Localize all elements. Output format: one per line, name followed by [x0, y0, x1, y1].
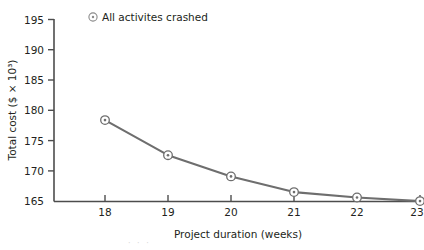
y-tick-label-175: 175 — [24, 135, 44, 147]
page-bleed-artifact: · · · — [128, 239, 151, 248]
data-point-19[interactable] — [164, 151, 173, 160]
y-axis-title: Total cost ($ × 10³) — [6, 60, 18, 162]
x-tick-label-22: 22 — [350, 206, 363, 218]
x-tick-label-21: 21 — [287, 206, 300, 218]
series-line-path — [105, 120, 420, 201]
y-tick-label-180: 180 — [24, 104, 44, 116]
x-tick-label-19: 19 — [161, 206, 174, 218]
y-tick-label-170: 170 — [24, 165, 44, 177]
marker-dot-18 — [104, 119, 107, 122]
x-tick-label-18: 18 — [98, 206, 111, 218]
y-axis-tick-labels: 195 190 185 180 175 170 165 — [24, 14, 44, 208]
data-point-22[interactable] — [353, 193, 362, 202]
marker-dot-23 — [419, 200, 422, 203]
data-point-20[interactable] — [227, 172, 236, 181]
data-point-21[interactable] — [290, 188, 299, 197]
x-axis-title: Project duration (weeks) — [174, 228, 302, 240]
marker-dot-20 — [230, 175, 233, 178]
y-tick-label-195: 195 — [24, 14, 44, 26]
marker-dot-22 — [356, 196, 359, 199]
circle-dot-marker-center-icon — [92, 16, 94, 18]
x-tick-label-20: 20 — [224, 206, 237, 218]
x-tick-label-23: 23 — [410, 206, 423, 218]
chart-legend[interactable]: All activites crashed — [89, 11, 208, 23]
marker-dot-21 — [293, 191, 296, 194]
line-chart-canvas: 195 190 185 180 175 170 165 18 19 20 21 … — [0, 0, 424, 250]
y-tick-label-165: 165 — [24, 195, 44, 207]
y-axis-ticks — [48, 20, 54, 171]
y-tick-label-185: 185 — [24, 74, 44, 86]
data-point-18[interactable] — [101, 116, 110, 125]
y-tick-label-190: 190 — [24, 44, 44, 56]
data-point-23[interactable] — [416, 197, 424, 206]
x-axis-tick-labels: 18 19 20 21 22 23 — [98, 206, 423, 218]
series-all-activites-crashed — [101, 116, 424, 206]
marker-dot-19 — [167, 154, 170, 157]
chart-figure: 195 190 185 180 175 170 165 18 19 20 21 … — [0, 0, 424, 250]
legend-item-label: All activites crashed — [102, 11, 208, 23]
